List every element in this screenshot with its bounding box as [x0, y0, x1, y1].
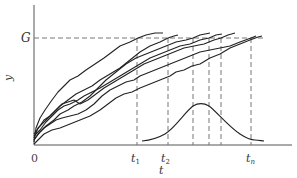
threshold-label: G [21, 31, 31, 45]
path-5 [34, 33, 235, 134]
sample-paths [34, 33, 262, 144]
path-3 [34, 33, 210, 140]
tick-label-t1: t1 [131, 152, 140, 166]
origin-label: 0 [31, 152, 38, 165]
path-7 [34, 36, 262, 144]
x-axis-label: t [159, 164, 164, 177]
path-4 [34, 34, 222, 136]
tick-label-tn: tn [246, 152, 255, 166]
first-passage-diagram: G y 0 t1 t2 tn t [0, 0, 297, 178]
path-6 [34, 36, 256, 140]
y-axis-label: y [2, 74, 15, 82]
first-passage-density-curve [142, 104, 264, 141]
